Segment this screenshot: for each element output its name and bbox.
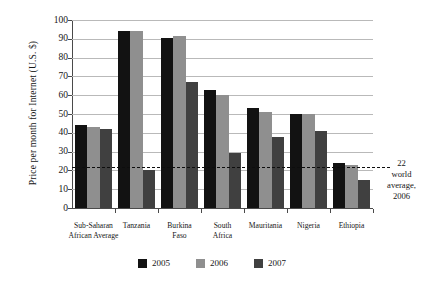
bar-chart-figure: Price per month for Internet (U.S. $) 01… (0, 0, 424, 283)
annotation-line: average, (379, 180, 424, 191)
y-tick-mark (68, 133, 72, 134)
y-tick-mark (68, 39, 72, 40)
bar-group (75, 20, 112, 208)
y-tick-mark (68, 20, 72, 21)
y-tick-label: 30 (24, 146, 68, 156)
bar-2007 (358, 180, 370, 208)
bar-2006 (345, 165, 357, 208)
y-tick-mark (68, 189, 72, 190)
legend-swatch (196, 259, 205, 268)
y-tick-mark (68, 208, 72, 209)
legend-label: 2006 (210, 258, 228, 268)
y-tick-label: 20 (24, 165, 68, 175)
y-tick-mark (68, 95, 72, 96)
legend-item: 2007 (254, 258, 286, 268)
bar-2005 (247, 108, 259, 208)
y-tick-label: 70 (24, 71, 68, 81)
y-tick-label: 10 (24, 184, 68, 194)
x-tick-mark (244, 209, 245, 213)
x-axis-line (72, 208, 373, 209)
y-tick-label: 80 (24, 52, 68, 62)
bar-group (118, 20, 155, 208)
x-tick-label-line: Ethiopia (322, 221, 381, 231)
y-tick-label: 0 (24, 203, 68, 213)
legend-item: 2006 (196, 258, 228, 268)
bar-2007 (229, 153, 241, 208)
legend-label: 2005 (152, 258, 170, 268)
bar-2005 (333, 163, 345, 208)
x-tick-mark (201, 209, 202, 213)
legend-item: 2005 (138, 258, 170, 268)
y-tick-mark (68, 76, 72, 77)
annotation-line: world (379, 169, 424, 180)
bar-2006 (302, 114, 314, 208)
bar-2007 (272, 137, 284, 208)
y-tick-label: 90 (24, 33, 68, 43)
world-average-reference-line (72, 167, 390, 168)
x-tick-label-line: Africa (193, 231, 252, 241)
bar-group (204, 20, 241, 208)
x-tick-mark (115, 209, 116, 213)
y-tick-mark (68, 170, 72, 171)
bar-2006 (173, 36, 185, 208)
bar-2006 (259, 112, 271, 208)
plot-area (72, 20, 373, 209)
bar-2007 (100, 129, 112, 208)
x-tick-label-line: African Average (64, 231, 123, 241)
bar-2005 (118, 31, 130, 208)
x-tick-mark (158, 209, 159, 213)
bar-2005 (161, 38, 173, 208)
x-tick-mark (330, 209, 331, 213)
bar-2005 (290, 114, 302, 208)
y-tick-label: 50 (24, 109, 68, 119)
world-average-annotation: 22worldaverage,2006 (379, 158, 424, 202)
x-tick-label: Ethiopia (322, 221, 381, 231)
bar-2006 (130, 31, 142, 208)
legend-label: 2007 (268, 258, 286, 268)
bar-2005 (204, 90, 216, 208)
y-tick-mark (68, 114, 72, 115)
bar-2006 (216, 95, 228, 208)
y-tick-mark (68, 58, 72, 59)
legend-swatch (138, 259, 147, 268)
bar-group (247, 20, 284, 208)
legend-swatch (254, 259, 263, 268)
y-tick-label: 40 (24, 127, 68, 137)
annotation-line: 2006 (379, 191, 424, 202)
annotation-line: 22 (379, 158, 424, 169)
x-tick-mark (287, 209, 288, 213)
y-tick-label: 100 (24, 15, 68, 25)
bar-2007 (315, 131, 327, 208)
y-tick-label: 60 (24, 90, 68, 100)
bar-group (333, 20, 370, 208)
bar-group (290, 20, 327, 208)
bar-2007 (186, 82, 198, 208)
y-tick-mark (68, 152, 72, 153)
bar-2007 (143, 170, 155, 208)
bar-group (161, 20, 198, 208)
x-tick-mark (373, 209, 374, 213)
chart-legend: 200520062007 (0, 258, 424, 268)
